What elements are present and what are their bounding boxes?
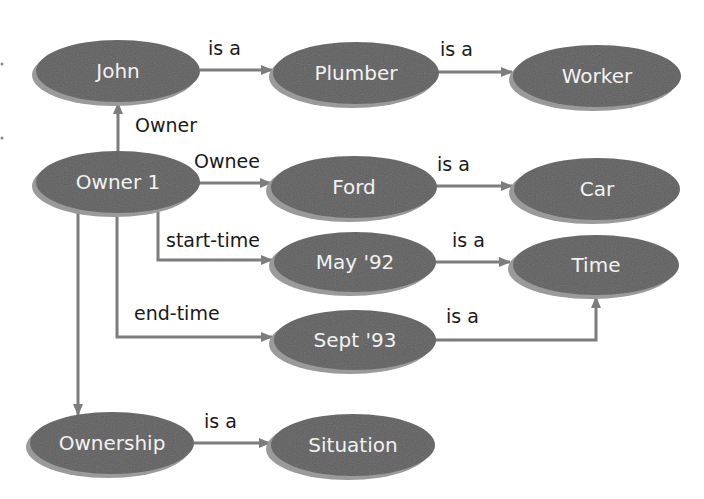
node-label: Plumber bbox=[315, 61, 399, 85]
edge-label-john-plumber: is a bbox=[208, 37, 241, 59]
node-label: John bbox=[94, 59, 140, 83]
node-label: Ford bbox=[332, 175, 376, 199]
node-worker: Worker bbox=[509, 45, 681, 111]
node-ford: Ford bbox=[266, 156, 437, 222]
node-time: Time bbox=[508, 235, 679, 299]
node-label: Ownership bbox=[59, 431, 166, 455]
edge-label-ownership-situation: is a bbox=[204, 410, 237, 432]
node-ownership: Ownership bbox=[26, 412, 194, 478]
edge-label-sept93-time: is a bbox=[446, 305, 479, 327]
node-label: Time bbox=[571, 253, 621, 277]
node-label: Car bbox=[580, 177, 615, 201]
edge-label-may92-time: is a bbox=[452, 229, 485, 251]
edge-label-end-time: end-time bbox=[134, 302, 220, 324]
node-label: May '92 bbox=[316, 250, 395, 274]
node-situation: Situation bbox=[266, 414, 435, 480]
node-label: Situation bbox=[308, 433, 397, 457]
scan-dot bbox=[1, 137, 4, 140]
node-label: Owner 1 bbox=[76, 170, 160, 194]
node-owner-1: Owner 1 bbox=[32, 151, 200, 217]
edge-label-start-time: start-time bbox=[166, 229, 260, 251]
node-label: Sept '93 bbox=[314, 328, 397, 352]
edge-label-ford-car: is a bbox=[437, 153, 470, 175]
scan-dot bbox=[1, 63, 4, 66]
semantic-network-diagram: is a is a Owner Ownee is a start-time is… bbox=[0, 0, 704, 499]
node-sept-93: Sept '93 bbox=[269, 310, 436, 374]
edge-label-plumber-worker: is a bbox=[440, 38, 473, 60]
edge-label-ownee: Ownee bbox=[194, 150, 260, 172]
node-label: Worker bbox=[562, 64, 633, 88]
node-plumber: Plumber bbox=[269, 42, 439, 108]
node-car: Car bbox=[509, 158, 680, 224]
node-may-92: May '92 bbox=[269, 232, 436, 296]
edge-label-owner: Owner bbox=[135, 114, 197, 136]
node-john: John bbox=[32, 40, 200, 106]
